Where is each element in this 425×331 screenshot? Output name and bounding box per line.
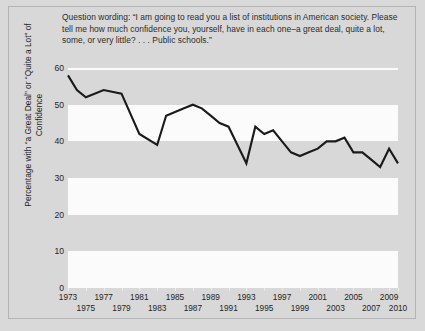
x-tick-mark [300, 288, 301, 291]
x-tick-label: 1999 [291, 303, 309, 313]
x-tick-label: 1995 [255, 303, 273, 313]
x-tick-label: 1997 [273, 292, 291, 302]
x-tick-label: 2009 [380, 292, 398, 302]
x-tick-label: 1993 [237, 292, 255, 302]
x-tick-mark [139, 288, 140, 291]
x-tick-label: 1989 [201, 292, 219, 302]
x-tick-mark [318, 288, 319, 291]
y-tick-label: 10 [18, 246, 64, 256]
x-tick-mark [353, 288, 354, 291]
x-tick-mark [211, 288, 212, 291]
x-tick-label: 2005 [344, 292, 362, 302]
line-series [68, 68, 398, 288]
x-tick-label: 1987 [184, 303, 202, 313]
x-tick-mark [193, 288, 194, 291]
x-tick-label: 2003 [326, 303, 344, 313]
x-tick-label: 2001 [308, 292, 326, 302]
x-tick-mark [175, 288, 176, 291]
x-axis-ticks: 1973197719811985198919931997200120052009… [68, 288, 398, 322]
x-tick-mark [68, 288, 69, 291]
x-tick-label: 1985 [166, 292, 184, 302]
x-tick-mark [371, 288, 372, 291]
x-tick-label: 2010 [389, 303, 407, 313]
x-tick-mark [229, 288, 230, 291]
x-tick-mark [389, 288, 390, 291]
confidence-line [68, 75, 398, 167]
x-tick-mark [398, 288, 399, 291]
x-tick-mark [86, 288, 87, 291]
x-tick-label: 2007 [362, 303, 380, 313]
x-tick-mark [246, 288, 247, 291]
question-wording-caption: Question wording: “I am going to read yo… [62, 12, 402, 47]
x-tick-mark [157, 288, 158, 291]
x-tick-label: 1977 [94, 292, 112, 302]
x-tick-mark [336, 288, 337, 291]
x-tick-label: 1975 [77, 303, 95, 313]
x-tick-label: 1991 [219, 303, 237, 313]
x-tick-mark [282, 288, 283, 291]
y-tick-label: 0 [18, 283, 64, 293]
y-tick-label: 20 [18, 210, 64, 220]
x-tick-mark [122, 288, 123, 291]
x-tick-label: 1973 [59, 292, 77, 302]
x-tick-mark [104, 288, 105, 291]
x-tick-mark [264, 288, 265, 291]
x-tick-label: 1979 [112, 303, 130, 313]
x-tick-label: 1983 [148, 303, 166, 313]
x-tick-label: 1981 [130, 292, 148, 302]
chart-figure: Question wording: “I am going to read yo… [0, 0, 425, 331]
y-axis-label: Percentage with “a Great Deal” or “Quite… [23, 20, 45, 210]
plot-area [68, 68, 398, 288]
